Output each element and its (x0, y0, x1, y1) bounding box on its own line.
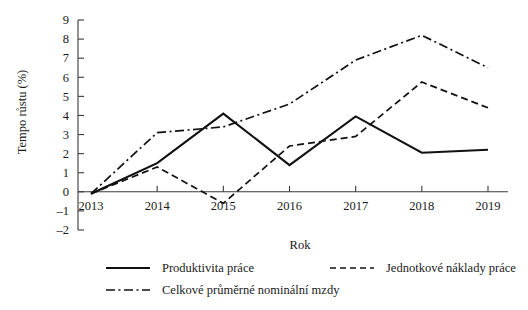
y-tick-label: –1 (56, 204, 70, 218)
x-tick-label: 2018 (409, 199, 434, 213)
series-line-1 (91, 114, 488, 194)
y-tick-label: 0 (63, 185, 69, 199)
chart-legend: Produktivita práceJednotkové náklady prá… (106, 261, 516, 297)
legend-label-3: Celkové průměrné nominální mzdy (162, 283, 340, 297)
y-tick-label: 2 (63, 147, 69, 161)
x-axis-ticks (157, 186, 488, 192)
y-tick-label: 6 (63, 71, 69, 85)
y-tick-label: 3 (63, 128, 69, 142)
data-series-group (91, 35, 488, 203)
x-tick-label: 2016 (277, 199, 302, 213)
chart-canvas: –2–10123456789 2013201420152016201720182… (0, 0, 528, 310)
legend-label-1: Produktivita práce (162, 261, 254, 275)
x-axis-title: Rok (290, 238, 312, 252)
x-tick-label: 2019 (476, 199, 501, 213)
y-tick-label: 7 (63, 51, 69, 65)
y-tick-label: 4 (63, 109, 70, 123)
x-tick-label: 2014 (145, 199, 171, 213)
y-tick-label: –2 (56, 223, 70, 237)
series-line-2 (91, 82, 488, 203)
legend-label-2: Jednotkové náklady práce (386, 261, 516, 275)
x-tick-label: 2013 (79, 199, 104, 213)
x-tick-label: 2017 (343, 199, 368, 213)
y-tick-label: 8 (63, 32, 69, 46)
x-tick-label: 2015 (211, 199, 236, 213)
y-tick-label: 5 (63, 90, 69, 104)
y-tick-label: 1 (63, 166, 69, 180)
y-tick-label: 9 (63, 13, 69, 27)
y-axis-tick-labels: –2–10123456789 (56, 13, 70, 237)
x-axis-tick-labels: 2013201420152016201720182019 (79, 199, 501, 213)
series-line-3 (91, 35, 488, 193)
y-axis-title: Tempo růstu (%) (15, 70, 29, 155)
line-chart: –2–10123456789 2013201420152016201720182… (0, 0, 528, 310)
